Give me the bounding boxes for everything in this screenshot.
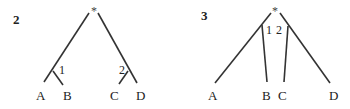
leaf-a: A (208, 88, 218, 103)
root-star: * (272, 4, 278, 18)
edge-to-d (280, 13, 330, 83)
internal-label-2: 2 (276, 23, 282, 37)
leaf-d: D (329, 88, 338, 103)
leaf-c: C (110, 88, 119, 103)
leaf-b: B (63, 88, 72, 103)
tree-diagrams: 2 * 1 2 A B C D 3 * 1 2 A B C D (0, 0, 350, 109)
edge-root-right (98, 13, 137, 83)
internal-label-1: 1 (59, 63, 65, 77)
edge-to-a (215, 13, 271, 83)
diagram-number: 2 (13, 12, 20, 27)
internal-label-2: 2 (119, 63, 125, 77)
tree-diagram-3: 3 * 1 2 A B C D (201, 4, 338, 103)
root-star: * (91, 4, 97, 18)
edge-root-left (44, 13, 89, 82)
leaf-d: D (136, 88, 145, 103)
leaf-c: C (278, 88, 287, 103)
leaf-a: A (36, 88, 46, 103)
leaf-b: B (262, 88, 271, 103)
tree-diagram-2: 2 * 1 2 A B C D (13, 4, 145, 103)
edge-to-c (284, 26, 288, 82)
internal-label-1: 1 (266, 23, 272, 37)
diagram-number: 3 (201, 8, 208, 23)
